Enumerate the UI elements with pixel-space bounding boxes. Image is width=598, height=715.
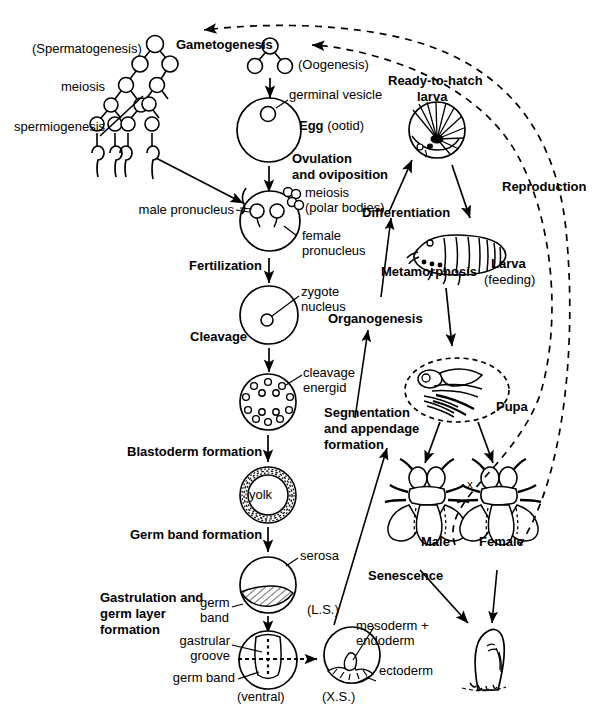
label-female-pronucleus-line2: pronucleus — [302, 244, 366, 259]
label-serosa: serosa — [300, 549, 339, 564]
label-gastrular: gastrular — [90, 634, 230, 649]
spermatogenesis-cell-tree — [90, 36, 178, 180]
label-cleavage-energid-line2: energid — [303, 381, 346, 396]
label-mesoderm: mesoderm + — [356, 619, 429, 634]
label-ready-larva-line1: Ready-to-hatch — [388, 74, 483, 89]
label-senescence: Senescence — [368, 569, 443, 584]
label-segmentation-line3: formation — [324, 438, 384, 453]
label-egg: Egg (ootid) — [299, 119, 364, 134]
label-cleavage-energid-line1: cleavage — [303, 366, 355, 381]
label-mating-cross: x — [467, 478, 473, 491]
female-senescence-arrow — [492, 570, 497, 623]
metamorphosis-arrow — [446, 288, 452, 346]
label-differentiation: Differentiation — [362, 206, 450, 221]
label-groove: groove — [90, 649, 230, 664]
label-germ-band-2: germ band — [90, 671, 235, 686]
hatch-to-larva-arrow — [452, 165, 470, 218]
pupa-to-female-arrow — [478, 422, 493, 463]
label-metamorphosis: Metamorphosis — [381, 265, 477, 280]
gastrulation-ventral-embryo — [232, 631, 300, 689]
label-germinal-vesicle: germinal vesicle — [289, 88, 382, 103]
label-ls: (L.S.) — [307, 603, 339, 618]
label-egg-paren: (ootid) — [327, 118, 364, 133]
label-endoderm: endoderm — [356, 634, 415, 649]
pupa-to-male-arrow — [425, 422, 440, 463]
label-germ-line1: germ — [200, 596, 230, 611]
label-gastrulation-line1: Gastrulation and — [100, 591, 203, 606]
label-spermiogenesis: spermiogenesis — [14, 120, 105, 135]
label-male-pronucleus: male pronucleus — [0, 203, 234, 218]
label-oviposition: and oviposition — [292, 168, 388, 183]
life-cycle-diagram: (Spermatogenesis) Gametogenesis (Oogenes… — [0, 0, 598, 715]
dead-insect — [462, 629, 506, 690]
label-pupa: Pupa — [496, 400, 528, 415]
label-xs: (X.S.) — [322, 690, 355, 705]
label-gametogenesis: Gametogenesis — [176, 38, 273, 53]
zygote-cell — [240, 286, 299, 344]
label-meiosis-polar: meiosis — [305, 186, 349, 201]
label-segmentation-line1: Segmentation — [324, 406, 410, 421]
label-fertilization: Fertilization — [189, 259, 262, 274]
germ-band-ls-embryo — [232, 557, 298, 613]
label-blastoderm-formation: Blastoderm formation — [127, 445, 262, 460]
cleavage-embryo — [240, 374, 302, 430]
ready-to-hatch-larva — [409, 102, 465, 158]
diagram-artwork — [0, 0, 598, 715]
label-meiosis: meiosis — [61, 80, 105, 95]
label-gastrulation-line2: germ layer — [100, 607, 166, 622]
label-ventral: (ventral) — [237, 690, 285, 705]
label-reproduction: Reproduction — [502, 180, 587, 195]
label-egg-bold: Egg — [299, 118, 324, 133]
label-female: Female — [479, 535, 524, 550]
label-spermatogenesis: (Spermatogenesis) — [32, 42, 142, 57]
label-oogenesis: (Oogenesis) — [298, 58, 369, 73]
label-germ-band-formation: Germ band formation — [130, 528, 262, 543]
segmentation-arrow-long — [334, 448, 387, 625]
label-female-pronucleus-line1: female — [302, 229, 341, 244]
label-larva-feeding: (feeding) — [484, 273, 535, 288]
fertilized-egg — [236, 188, 304, 252]
label-organogenesis: Organogenesis — [328, 312, 423, 327]
label-ectoderm: ectoderm — [379, 664, 433, 679]
adult-male — [385, 459, 469, 545]
sperm-to-egg-arrow — [156, 158, 243, 203]
adult-female — [457, 459, 541, 545]
label-male: Male — [421, 535, 450, 550]
label-cleavage: Cleavage — [190, 330, 247, 345]
label-band-line1: band — [200, 611, 229, 626]
differentiation-arrow — [381, 218, 391, 297]
label-zygote: zygote — [301, 285, 339, 300]
pupa — [405, 358, 509, 422]
label-yolk: yolk — [249, 488, 272, 503]
label-larva: Larva — [491, 257, 526, 272]
label-ready-larva-line2: larva — [417, 90, 447, 105]
label-ovulation: Ovulation — [292, 152, 352, 167]
label-segmentation-line2: and appendage — [324, 422, 419, 437]
